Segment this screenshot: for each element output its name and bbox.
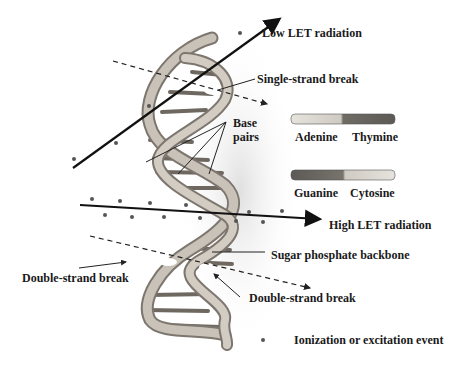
adenine-thymine-bar [291,114,395,124]
legend-dot [261,338,265,342]
label-cytosine: Cytosine [350,187,395,200]
label-thymine: Thymine [352,131,398,144]
label-high-let-radiation: High LET radiation [329,219,431,232]
label-double-strand-break-right: Double-strand break [249,292,356,305]
dna-radiation-damage-diagram: Low LET radiation Single-strand break Ba… [0,0,469,365]
label-double-strand-break-left: Double-strand break [22,272,129,285]
diagram-graphics [0,0,469,365]
label-guanine: Guanine [294,187,338,200]
label-base-pairs-line2: pairs [233,131,259,144]
label-base-pairs-line1: Base [233,117,257,130]
guanine-cytosine-bar [291,170,395,180]
label-sugar-phosphate-backbone: Sugar phosphate backbone [271,249,410,262]
label-low-let-radiation: Low LET radiation [262,27,362,40]
label-adenine: Adenine [295,131,338,144]
legend-ionization-label: Ionization or excitation event [294,334,443,347]
label-single-strand-break: Single-strand break [257,73,358,86]
